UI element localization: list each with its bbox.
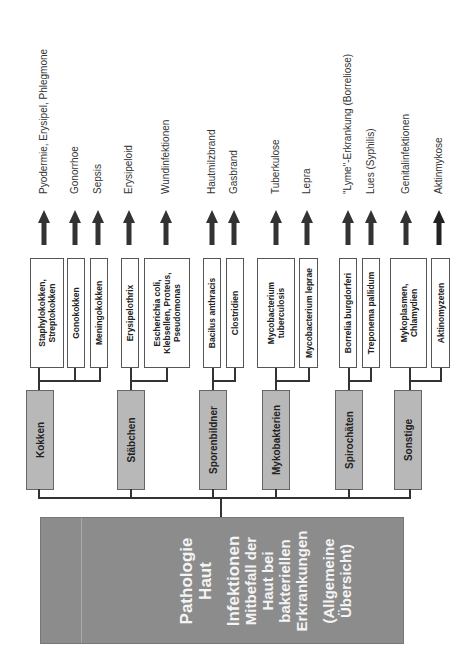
main-subtitle-line: Mitbefall der: [242, 521, 259, 641]
species-connector: [275, 380, 310, 382]
arrow-up-icon: [301, 210, 313, 245]
category-stem: [130, 489, 132, 498]
species-connector: [166, 367, 168, 381]
category-stem: [275, 489, 277, 498]
category-label: Sonstige: [403, 419, 414, 461]
disease-label: Gasbrand: [228, 150, 239, 194]
species-box: Meningokokken: [90, 258, 108, 368]
main-subtitle-line: bakteriellen: [276, 521, 293, 641]
disease-label: Aktinmykose: [433, 137, 444, 194]
species-connector: [409, 380, 442, 382]
arrow-up-icon: [38, 210, 50, 245]
disease-label: Lues (Syphilis): [365, 128, 376, 194]
species-label: Aktinomyzeten: [436, 283, 446, 343]
category-stem: [348, 489, 350, 498]
species-box: Mycobacteriumtuberculosis: [257, 258, 295, 368]
species-connector: [409, 367, 411, 390]
main-note-line: Übersicht): [337, 521, 354, 641]
species-box: Escherichia coli,Klebsellen, Proteus,Pse…: [144, 258, 190, 368]
species-box: Aktinomyzeten: [431, 258, 450, 368]
main-title: Pathologie Haut: [177, 521, 215, 641]
main-subtitle: Infektionen Mitbefall der Haut bei bakte…: [225, 521, 310, 641]
category-stem: [38, 489, 40, 498]
category-stem: [409, 489, 411, 498]
disease-label: Tuberkulose: [270, 139, 281, 194]
category-box-staebchen: Stäbchen: [117, 390, 145, 490]
main-topic-box: Pathologie Haut Infektionen Mitbefall de…: [40, 517, 404, 644]
disease-label: Erysipeloid: [123, 145, 134, 194]
species-connector: [440, 367, 442, 381]
disease-label: Gonorrhoe: [69, 146, 80, 194]
species-label: Erysipelothrix: [125, 285, 135, 342]
species-box: Staphylokokken,Streptokokken: [30, 258, 64, 368]
arrow-up-icon: [123, 210, 135, 245]
disease-label: Wundinfektionen: [160, 120, 171, 194]
species-label: Escherichia coli,Klebsellen, Proteus,Pse…: [152, 272, 182, 353]
species-connector: [370, 367, 372, 381]
species-label: Clostridien: [230, 291, 240, 335]
main-subtitle-line: Haut bei: [259, 521, 276, 641]
species-connector: [212, 380, 236, 382]
species-label: Treponema pallidum: [366, 272, 376, 355]
species-connector: [275, 367, 277, 390]
category-box-spirochaeten: Spirochäten: [335, 390, 363, 490]
main-subtitle-line: Infektionen: [225, 521, 242, 641]
arrow-up-icon: [270, 210, 282, 245]
disease-label: Sepsis: [92, 164, 103, 194]
species-connector: [38, 367, 40, 390]
category-label: Kokken: [35, 422, 46, 458]
species-connector: [234, 367, 236, 381]
main-connector: [220, 497, 222, 517]
species-box: Treponema pallidum: [362, 258, 380, 368]
main-note: (Allgemeine Übersicht): [320, 521, 354, 641]
species-label: Meningokokken: [94, 281, 104, 345]
species-connector: [348, 380, 372, 382]
category-label: Stäbchen: [126, 417, 137, 462]
disease-label: Hautmilzbrand: [206, 130, 217, 194]
category-box-sporenbildner: Sporenbildner: [199, 390, 227, 490]
species-box: Mycobacterium leprae: [299, 258, 318, 368]
species-connector: [130, 380, 168, 382]
disease-label: Genitalinfektionen: [400, 114, 411, 194]
category-box-sonstige: Sonstige: [394, 390, 422, 490]
species-connector: [212, 367, 214, 390]
main-title-line: Haut: [196, 521, 215, 641]
arrow-up-icon: [160, 210, 172, 245]
species-connector: [99, 367, 101, 381]
species-connector: [308, 367, 310, 381]
arrow-up-icon: [433, 210, 445, 245]
disease-label: Pyodermie, Erysipel, Phlegmone: [38, 49, 49, 194]
main-title-line: Pathologie: [177, 521, 196, 641]
disease-label: Lepra: [301, 168, 312, 194]
category-label: Mykobakterien: [271, 405, 282, 475]
species-box: Mykoplasmen,Chlamydien: [390, 258, 427, 368]
arrow-up-icon: [342, 210, 354, 245]
arrow-up-icon: [92, 210, 104, 245]
category-label: Spirochäten: [344, 411, 355, 469]
species-label: Gonokokken: [71, 287, 81, 338]
main-topic-text: Pathologie Haut Infektionen Mitbefall de…: [177, 521, 354, 641]
species-box: Gonokokken: [67, 258, 85, 368]
disease-label: "Lyme"-Erkrankung (Borreliose): [342, 54, 353, 194]
category-bus-line: [38, 497, 411, 499]
category-box-mykobakterien: Mykobakterien: [262, 390, 290, 490]
arrow-up-icon: [206, 210, 218, 245]
species-label: Mycobacterium leprae: [304, 268, 314, 358]
species-label: Mykoplasmen,Chlamydien: [399, 284, 419, 343]
species-box: Clostridien: [226, 258, 244, 368]
arrow-up-icon: [365, 210, 377, 245]
arrow-up-icon: [400, 210, 412, 245]
species-label: Borrelia burgdorferi: [343, 273, 353, 353]
main-subtitle-line: Erkrankungen: [293, 521, 310, 641]
category-stem: [212, 489, 214, 498]
species-box: Erysipelothrix: [121, 258, 139, 368]
species-label: Bacilus anthracis: [207, 278, 217, 348]
main-box-divider: [81, 518, 82, 643]
species-label: Mycobacteriumtuberculosis: [266, 282, 286, 344]
species-label: Staphylokokken,Streptokokken: [37, 279, 57, 347]
species-connector: [130, 367, 132, 390]
species-box: Bacilus anthracis: [203, 258, 221, 368]
species-connector: [74, 367, 76, 381]
species-box: Borrelia burgdorferi: [339, 258, 357, 368]
main-note-line: (Allgemeine: [320, 521, 337, 641]
